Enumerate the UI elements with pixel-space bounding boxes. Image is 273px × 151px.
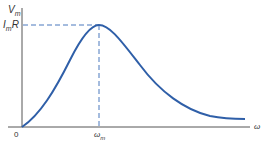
x-axis-label: ω (254, 122, 260, 132)
resonance-curve (22, 25, 245, 127)
origin-label: 0 (14, 130, 18, 140)
resonance-chart (0, 0, 273, 151)
omega-m-label: ωm (94, 130, 105, 143)
y-axis-label: Vm (8, 5, 21, 19)
peak-value-label: ImR (3, 20, 19, 34)
